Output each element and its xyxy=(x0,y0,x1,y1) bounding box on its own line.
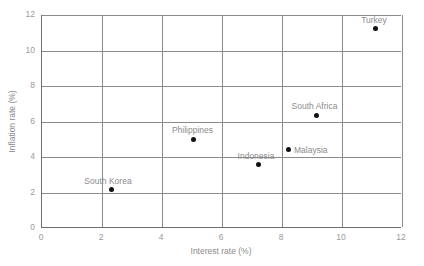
x-tick-label: 10 xyxy=(326,232,356,242)
gridline-horizontal xyxy=(42,51,401,52)
gridline-horizontal xyxy=(42,15,401,16)
scatter-chart: Inflation rate (%) 024681012 South Korea… xyxy=(0,0,424,266)
y-tick-label: 10 xyxy=(9,45,35,55)
data-point-label: Turkey xyxy=(361,15,387,25)
data-point[interactable] xyxy=(256,162,261,167)
gridline-horizontal xyxy=(42,86,401,87)
y-tick-label: 8 xyxy=(9,80,35,90)
x-tick-label: 2 xyxy=(86,232,116,242)
x-axis-title-text: Interest rate (%) xyxy=(191,246,252,256)
x-axis-title: Interest rate (%) xyxy=(0,246,424,256)
x-tick-label: 8 xyxy=(266,232,296,242)
x-tick-label: 6 xyxy=(206,232,236,242)
y-tick-label: 2 xyxy=(9,187,35,197)
gridline-horizontal xyxy=(42,122,401,123)
data-point-label: Malaysia xyxy=(294,145,328,155)
y-tick-label: 4 xyxy=(9,151,35,161)
y-tick-label: 12 xyxy=(9,9,35,19)
gridline-horizontal xyxy=(42,193,401,194)
data-point[interactable] xyxy=(286,147,291,152)
y-tick-label: 6 xyxy=(9,116,35,126)
data-point[interactable] xyxy=(191,137,196,142)
data-point[interactable] xyxy=(109,187,114,192)
data-point-label: Philippines xyxy=(172,125,213,135)
data-point-label: South Africa xyxy=(292,101,338,111)
gridline-vertical xyxy=(402,15,403,227)
data-point[interactable] xyxy=(314,113,319,118)
data-point[interactable] xyxy=(373,26,378,31)
x-tick-label: 4 xyxy=(146,232,176,242)
x-tick-label: 12 xyxy=(386,232,416,242)
x-tick-label: 0 xyxy=(26,232,56,242)
data-point-label: Indonesia xyxy=(238,151,275,161)
gridline-horizontal xyxy=(42,157,401,158)
plot-area: South KoreaPhilippinesIndonesiaMalaysiaS… xyxy=(41,15,401,228)
data-point-label: South Korea xyxy=(84,176,131,186)
y-tick-label: 0 xyxy=(9,222,35,232)
